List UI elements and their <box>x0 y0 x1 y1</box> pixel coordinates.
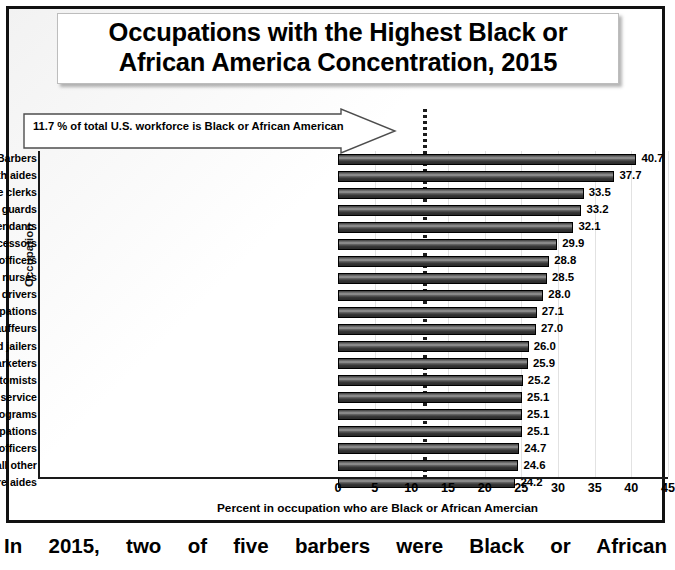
bar-value-label: 37.7 <box>619 169 641 181</box>
bar-row: Mail clerks and mail machine operators, … <box>41 390 668 407</box>
x-axis-line <box>38 477 668 479</box>
bar-row: Postal service mail sorters, and process… <box>41 236 668 253</box>
bar-row: Licensed practical and licensed vocation… <box>41 270 668 287</box>
bar-track: 25.1 <box>338 407 668 424</box>
bar-track: 32.1 <box>338 219 668 236</box>
bar-row: First-line supervisors of correctional o… <box>41 441 668 458</box>
bar[interactable] <box>338 392 522 403</box>
x-tick-label: 35 <box>588 481 602 495</box>
x-axis-title: Percent in occupation who are Black or A… <box>21 501 668 515</box>
slide-caption: In 2015, two of five barbers were Black … <box>0 534 671 558</box>
x-tick-label: 20 <box>478 481 492 495</box>
bar-value-label: 27.0 <box>541 322 563 334</box>
bar[interactable] <box>338 443 519 454</box>
bar-track: 40.7 <box>338 151 668 168</box>
bar[interactable] <box>338 409 522 420</box>
bar-category-label: Personal care aides <box>0 476 37 489</box>
bar-track: 24.6 <box>338 458 668 475</box>
bar[interactable] <box>338 273 547 284</box>
chart-title: Occupations with the Highest Black or Af… <box>57 13 619 84</box>
bar[interactable] <box>338 426 522 437</box>
bar-value-label: 29.9 <box>562 237 584 249</box>
bar-category-label: Healthcare support occupations <box>0 305 37 318</box>
bar-category-label: Eligibility interviewers, government pro… <box>0 408 37 421</box>
bar-value-label: 24.7 <box>524 442 546 454</box>
x-tick-label: 45 <box>661 481 675 495</box>
bar-value-label: 40.7 <box>641 152 663 164</box>
bar[interactable] <box>338 205 581 216</box>
bar-category-label: Security guards and gaming surveillance … <box>0 254 37 267</box>
x-tick-label: 25 <box>514 481 528 495</box>
bar-category-label: Miscellaneous healthcare support occupat… <box>0 425 37 438</box>
bar-track: 27.0 <box>338 321 668 338</box>
bar-track: 25.9 <box>338 356 668 373</box>
bar-track: 28.8 <box>338 253 668 270</box>
bar-category-label: Bailiffs, correctional officers, and jai… <box>0 340 37 353</box>
bar-value-label: 28.5 <box>552 271 574 283</box>
bar-value-label: 32.1 <box>578 220 600 232</box>
bar-row: Miscellaneous healthcare support occupat… <box>41 424 668 441</box>
bar[interactable] <box>338 341 529 352</box>
bar[interactable] <box>338 171 614 182</box>
bar-value-label: 25.1 <box>527 425 549 437</box>
bar-category-label: Taxi drivers and chauffeurs <box>0 322 37 335</box>
bar-row: Financial clerks, all other24.6 <box>41 458 668 475</box>
x-tick-label: 10 <box>404 481 418 495</box>
bar-category-label: Telemarketers <box>0 357 37 370</box>
bar-row: Security guards and gaming surveillance … <box>41 253 668 270</box>
bar-value-label: 28.0 <box>548 288 570 300</box>
bar-category-label: Barbers <box>0 152 37 165</box>
chart-title-line-1: Occupations with the Highest Black or <box>64 18 612 48</box>
callout-text: 11.7 % of total U.S. workforce is Black … <box>33 120 344 132</box>
bar-row: Taxi drivers and chauffeurs27.0 <box>41 321 668 338</box>
bar[interactable] <box>338 307 537 318</box>
bar-track: 28.5 <box>338 270 668 287</box>
x-tick-label: 40 <box>624 481 638 495</box>
x-tick-label: 30 <box>551 481 565 495</box>
bar[interactable] <box>338 324 536 335</box>
bar-category-label: Licensed practical and licensed vocation… <box>0 271 37 284</box>
bar-value-label: 25.9 <box>533 357 555 369</box>
bar-track: 37.7 <box>338 168 668 185</box>
bar-category-label: Mail clerks and mail machine operators, … <box>0 391 37 404</box>
bar-value-label: 25.1 <box>527 391 549 403</box>
bar-row: Bailiffs, correctional officers, and jai… <box>41 339 668 356</box>
bar-track: 33.5 <box>338 185 668 202</box>
bar-value-label: 24.6 <box>523 459 545 471</box>
bar-value-label: 25.1 <box>527 408 549 420</box>
bar[interactable] <box>338 375 523 386</box>
bar-category-label: Postal service mail sorters, and process… <box>0 237 37 250</box>
bar-track: 26.0 <box>338 339 668 356</box>
bar-category-label: Phlebotomists <box>0 374 37 387</box>
bar[interactable] <box>338 222 573 233</box>
bar[interactable] <box>338 256 549 267</box>
plot-area: Occupation Barbers40.7Nursing, psychiatr… <box>21 149 668 524</box>
bar-track: 25.2 <box>338 373 668 390</box>
bar-row: Postal service clerks33.5 <box>41 185 668 202</box>
chart-title-line-2: African America Concentration, 2015 <box>64 48 612 78</box>
bar[interactable] <box>338 460 518 471</box>
bar[interactable] <box>338 290 543 301</box>
bar[interactable] <box>338 154 636 165</box>
bar-track: 25.1 <box>338 424 668 441</box>
y-axis-line <box>38 151 40 477</box>
bar[interactable] <box>338 239 557 250</box>
bar-row: Parking lot attendants32.1 <box>41 219 668 236</box>
bar-value-label: 33.2 <box>586 203 608 215</box>
bar-row: Healthcare support occupations27.1 <box>41 304 668 321</box>
bar-value-label: 27.1 <box>542 305 564 317</box>
bar-track: 33.2 <box>338 202 668 219</box>
bar-row: Nursing, psychiatric, and home health ai… <box>41 168 668 185</box>
bar-category-label: Nursing, psychiatric, and home health ai… <box>0 169 37 182</box>
reference-line-callout: 11.7 % of total U.S. workforce is Black … <box>23 108 397 154</box>
bar[interactable] <box>338 188 584 199</box>
bar-category-label: Parking lot attendants <box>0 220 37 233</box>
bar[interactable] <box>338 358 528 369</box>
bar-rows: Barbers40.7Nursing, psychiatric, and hom… <box>41 151 668 492</box>
x-axis-ticks: 051015202530354045 <box>338 481 668 499</box>
x-tick-label: 5 <box>371 481 378 495</box>
x-tick-label: 0 <box>334 481 341 495</box>
bar-row: Phlebotomists25.2 <box>41 373 668 390</box>
bar-track: 29.9 <box>338 236 668 253</box>
